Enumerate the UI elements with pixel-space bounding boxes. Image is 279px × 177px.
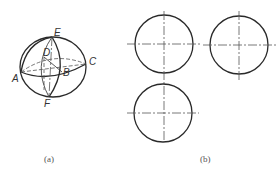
label-b: B: [63, 67, 70, 78]
label-e: E: [54, 27, 61, 38]
sphere-figure: E D C B A F (a): [11, 27, 97, 164]
front-view: [127, 11, 200, 140]
three-views-figure: (b): [127, 11, 277, 164]
diagram-canvas: E D C B A F (a) (b): [0, 0, 279, 177]
label-a: A: [11, 73, 19, 84]
side-view: [203, 11, 277, 80]
caption-b: (b): [200, 154, 211, 164]
sphere-outline: [20, 37, 86, 97]
top-view: [127, 84, 199, 142]
label-d: D: [43, 47, 50, 58]
equator-front-arc: [21, 64, 86, 77]
line-d-b: [44, 57, 62, 72]
caption-a: (a): [44, 154, 54, 164]
axis-e-f: [49, 37, 52, 97]
label-f: F: [44, 98, 51, 109]
label-c: C: [89, 56, 97, 67]
